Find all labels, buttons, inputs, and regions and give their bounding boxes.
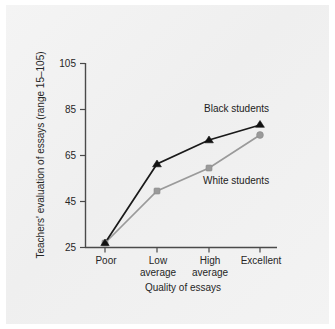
marker-white-students-excellent [257, 132, 264, 139]
y-tick-label-65: 65 [65, 150, 77, 161]
y-tick-label-105: 105 [59, 58, 76, 69]
marker-black-students-excellent [256, 121, 265, 128]
x-axis-title: Quality of essays [145, 282, 221, 293]
x-label-excellent: Excellent [241, 255, 282, 266]
y-tick-label-25: 25 [65, 242, 77, 253]
x-label-high: High [200, 255, 221, 266]
y-axis-title: Teachers' evaluation of essays (range 15… [35, 51, 46, 258]
x-label-low-average: average [140, 267, 177, 278]
line-chart: 105 85 65 45 25 Poor Low average High av… [0, 0, 335, 329]
y-tick-label-45: 45 [65, 196, 77, 207]
series-annotation-black-students: Black students [204, 103, 269, 114]
chart-plot-area: 105 85 65 45 25 Poor Low average High av… [0, 0, 335, 329]
series-annotation-white-students: White students [203, 175, 269, 186]
y-tick-label-85: 85 [65, 104, 77, 115]
series-line-white-students [105, 135, 260, 243]
x-label-high-average: average [192, 267, 229, 278]
figure-root: 105 85 65 45 25 Poor Low average High av… [0, 0, 335, 329]
x-label-low: Low [149, 255, 168, 266]
marker-white-students-high-average [206, 165, 212, 171]
marker-white-students-low-average [154, 188, 160, 194]
x-label-poor: Poor [95, 255, 117, 266]
